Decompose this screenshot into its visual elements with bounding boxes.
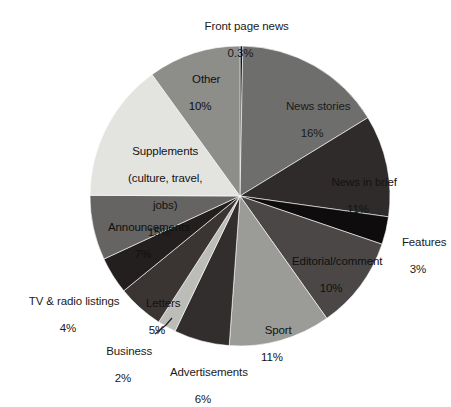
slice-label-advertisements-value: 6% (142, 393, 264, 407)
slice-label-letters-name: Letters (146, 297, 180, 309)
slice-label-other-name: Other (192, 73, 220, 85)
slice-label-advertisements-name: Advertisements (170, 366, 248, 378)
slice-label-tv-radio-listings-name: TV & radio listings (29, 295, 120, 307)
slice-label-tv-radio-listings-value: 4% (2, 322, 134, 336)
slice-label-supplements-name-line3: jobs) (153, 199, 177, 211)
slice-label-business-value: 2% (88, 372, 158, 386)
slice-label-news-in-brief-name: News in brief (332, 176, 397, 188)
slice-label-features: Features 3% (386, 222, 450, 303)
slice-label-editorial-comment-value: 10% (272, 282, 390, 296)
slice-label-news-stories-value: 16% (252, 127, 372, 141)
slice-label-supplements-name-line1: Supplements (132, 145, 198, 157)
slice-label-sport-name: Sport (265, 324, 292, 336)
slice-label-tv-radio-listings: TV & radio listings 4% (2, 281, 134, 362)
slice-label-other-value: 10% (160, 100, 240, 114)
slice-label-news-stories: News stories 16% (252, 86, 372, 167)
slice-label-front-page-news-value: 0.3% (168, 47, 313, 61)
slice-label-news-in-brief-value: 11% (306, 203, 410, 217)
slice-label-supplements: Supplements (culture, travel, jobs) 15% (96, 131, 222, 266)
slice-label-editorial-comment-name: Editorial/comment (292, 255, 382, 267)
slice-label-features-name: Features (402, 236, 447, 248)
slice-label-other: Other 10% (160, 59, 240, 140)
slice-label-front-page-news-name: Front page news (205, 20, 289, 32)
slice-label-news-stories-name: News stories (286, 100, 351, 112)
slice-label-features-value: 3% (386, 263, 450, 277)
slice-label-supplements-name-line2: (culture, travel, (128, 172, 202, 184)
slice-label-supplements-value: 15% (96, 226, 222, 240)
